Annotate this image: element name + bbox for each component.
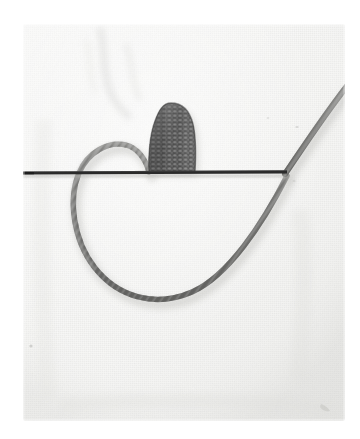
photograph-canvas: Needle drawn through fabric beneath a fi… [0,0,360,439]
film-grain [23,24,345,421]
fabric-ground [21,24,351,421]
embroidery-photo-scene [0,0,360,439]
